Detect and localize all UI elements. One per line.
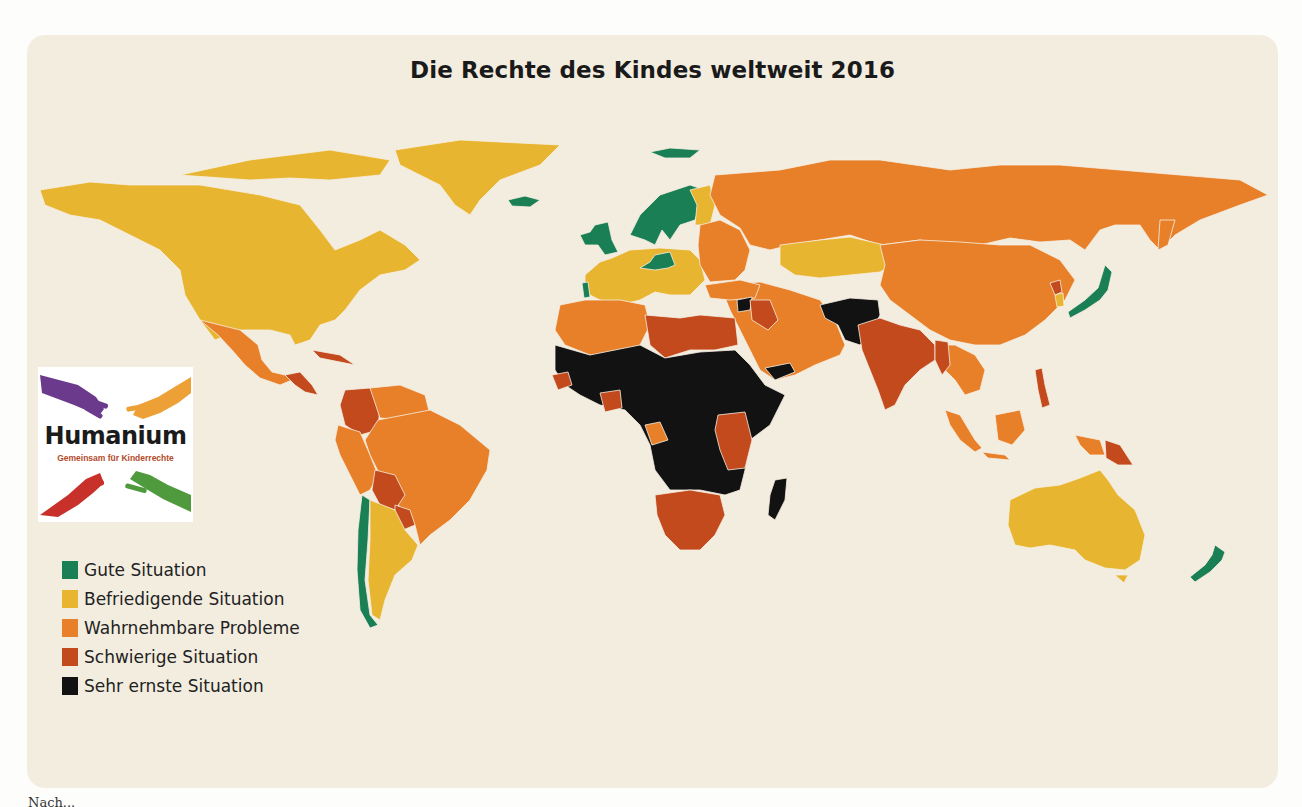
legend-label: Wahrnehmbare Probleme: [84, 618, 300, 638]
humanium-logo: Humanium Gemeinsam für Kinderrechte: [38, 367, 193, 522]
country-southern-africa: [655, 490, 725, 550]
country-sumatra: [945, 410, 982, 452]
legend-swatch: [62, 619, 78, 637]
country-syria: [737, 297, 752, 312]
country-philippines: [1035, 368, 1050, 408]
country-canada-arctic: [180, 150, 390, 180]
country-caribbean: [312, 350, 355, 365]
country-japan: [1068, 265, 1112, 318]
country-central-america: [285, 372, 318, 395]
logo-tagline: Gemeinsam für Kinderrechte: [38, 453, 193, 463]
country-uk-ireland: [580, 222, 618, 255]
country-papua-new-guinea: [1105, 440, 1133, 465]
legend-swatch: [62, 648, 78, 666]
legend-label: Schwierige Situation: [84, 647, 258, 667]
legend-item-wahrnehmbar: Wahrnehmbare Probleme: [62, 613, 300, 642]
country-north-america: [40, 182, 420, 345]
legend-swatch: [62, 561, 78, 579]
legend-item-sehr-ernst: Sehr ernste Situation: [62, 671, 300, 700]
country-java: [982, 452, 1010, 460]
legend-item-gute: Gute Situation: [62, 555, 300, 584]
country-borneo: [995, 410, 1025, 445]
country-western-europe: [585, 248, 705, 305]
source-caption: Nach...: [28, 795, 75, 807]
country-svalbard: [650, 148, 700, 158]
legend-label: Sehr ernste Situation: [84, 676, 264, 696]
legend-item-schwierig: Schwierige Situation: [62, 642, 300, 671]
country-new-zealand: [1190, 545, 1225, 582]
logo-brand: Humanium: [38, 422, 193, 450]
country-india-region: [858, 318, 935, 410]
country-madagascar: [768, 478, 787, 520]
legend-swatch: [62, 590, 78, 608]
country-russia: [710, 160, 1268, 250]
country-australia: [1008, 470, 1145, 570]
legend-item-befriedigend: Befriedigende Situation: [62, 584, 300, 613]
country-new-guinea-west: [1075, 435, 1105, 455]
legend-label: Gute Situation: [84, 560, 206, 580]
country-sub-saharan-africa: [555, 345, 785, 495]
country-tasmania: [1115, 575, 1128, 583]
legend: Gute Situation Befriedigende Situation W…: [62, 555, 300, 700]
country-korea-south: [1055, 293, 1064, 307]
legend-label: Befriedigende Situation: [84, 589, 284, 609]
country-iceland: [508, 196, 540, 207]
legend-swatch: [62, 677, 78, 695]
country-ghana-ivory: [600, 390, 622, 412]
